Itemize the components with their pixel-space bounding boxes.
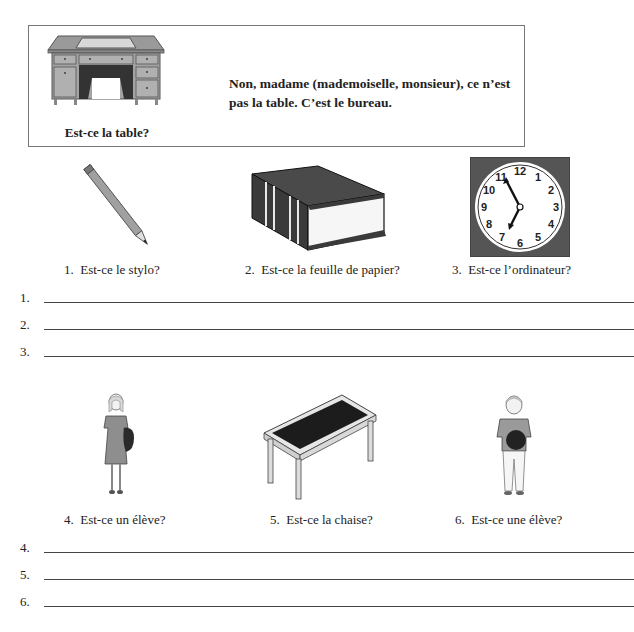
svg-text:2: 2 [548,184,554,196]
svg-text:1: 1 [535,171,541,183]
example-question: Est-ce la table? [29,125,185,141]
answer-field-3[interactable] [44,356,634,357]
answer-field-5[interactable] [44,579,634,580]
answer-line-6[interactable]: 6. [20,594,634,610]
answer-field-2[interactable] [44,329,634,330]
example-answer: Non, madame (mademoiselle, monsieur), ce… [229,74,519,112]
svg-text:10: 10 [483,184,495,196]
desk-icon [46,34,166,106]
answer-line-1[interactable]: 1. [20,290,634,306]
svg-text:5: 5 [535,231,541,243]
question-3: 3. Est-ce l’ordinateur? [452,262,571,278]
table-icon [262,393,378,501]
girl-student-icon [98,392,144,498]
question-1: 1. Est-ce le stylo? [64,262,160,278]
svg-text:4: 4 [548,218,555,230]
example-box: Est-ce la table? Non, madame (mademoisel… [28,25,525,147]
question-2: 2. Est-ce la feuille de papier? [245,262,400,278]
svg-text:9: 9 [481,201,487,213]
svg-text:7: 7 [499,231,505,243]
svg-text:6: 6 [517,237,523,249]
question-6: 6. Est-ce une élève? [455,512,562,528]
question-4: 4. Est-ce un élève? [64,512,165,528]
answer-line-4[interactable]: 4. [20,540,634,556]
svg-text:12: 12 [514,165,526,177]
svg-text:3: 3 [553,201,559,213]
book-icon [248,160,388,252]
boy-student-icon [496,393,536,497]
answer-line-2[interactable]: 2. [20,317,634,333]
question-5: 5. Est-ce la chaise? [270,512,373,528]
answer-line-3[interactable]: 3. [20,344,634,360]
answer-field-1[interactable] [44,302,634,303]
clock-icon: 1212 345 678 91011 [470,157,570,257]
answer-field-6[interactable] [44,606,634,607]
answer-line-5[interactable]: 5. [20,567,634,583]
answer-field-4[interactable] [44,552,634,553]
svg-text:8: 8 [486,218,492,230]
pencil-icon [78,158,160,258]
